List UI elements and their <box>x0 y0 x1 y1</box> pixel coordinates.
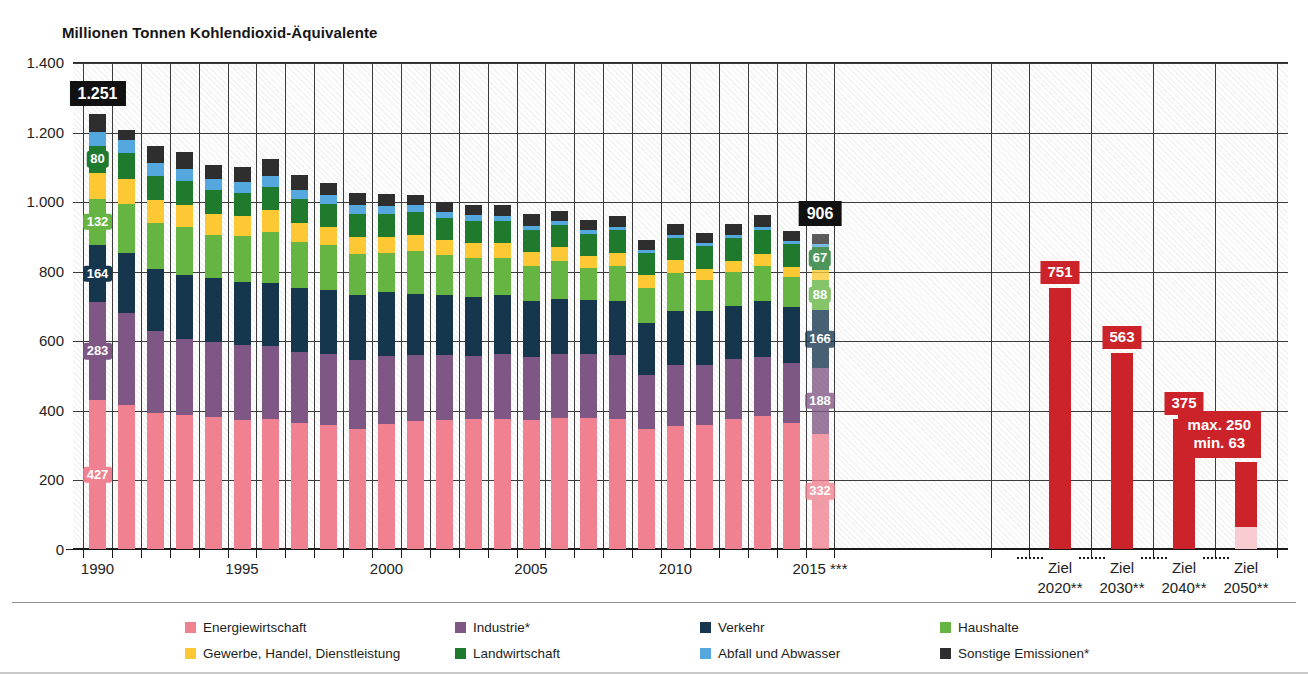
bar-segment[interactable] <box>667 426 684 549</box>
bar-segment[interactable] <box>667 224 684 234</box>
bar-segment[interactable]: 80 <box>89 146 106 174</box>
bar-segment[interactable] <box>234 182 251 193</box>
stacked-bar[interactable] <box>580 220 597 549</box>
bar-segment[interactable] <box>176 205 193 227</box>
bar-segment[interactable] <box>783 307 800 363</box>
bar-segment[interactable] <box>147 269 164 331</box>
bar-segment[interactable] <box>812 270 829 280</box>
stacked-bar[interactable] <box>725 224 742 549</box>
bar-segment[interactable] <box>551 299 568 354</box>
bar-segment[interactable] <box>147 176 164 200</box>
bar-segment[interactable] <box>118 405 135 549</box>
bar-segment[interactable] <box>551 247 568 261</box>
bar-segment[interactable] <box>89 173 106 199</box>
bar-segment[interactable] <box>465 258 482 297</box>
bar-segment[interactable] <box>118 204 135 253</box>
stacked-bar[interactable] <box>262 159 279 549</box>
bar-segment[interactable] <box>378 424 395 549</box>
bar-segment[interactable] <box>725 261 742 272</box>
bar-segment[interactable] <box>118 313 135 404</box>
bar-segment[interactable] <box>609 301 626 355</box>
bar-segment[interactable] <box>783 244 800 268</box>
bar-segment[interactable]: 283 <box>89 302 106 400</box>
bar-segment[interactable] <box>234 167 251 182</box>
bar-segment[interactable] <box>378 206 395 214</box>
bar-segment[interactable] <box>609 253 626 266</box>
stacked-bar[interactable] <box>349 193 366 549</box>
bar-segment[interactable] <box>176 152 193 169</box>
stacked-bar[interactable] <box>234 167 251 549</box>
bar-segment[interactable] <box>551 354 568 418</box>
bar-segment[interactable] <box>523 301 540 357</box>
bar-segment[interactable]: 332 <box>812 434 829 549</box>
legend-item[interactable]: Energiewirtschaft <box>185 620 455 635</box>
legend-item[interactable]: Industrie* <box>455 620 700 635</box>
bar-segment[interactable] <box>176 181 193 205</box>
bar-segment[interactable] <box>205 190 222 214</box>
bar-segment[interactable] <box>465 297 482 355</box>
bar-segment[interactable] <box>262 187 279 211</box>
bar-segment[interactable] <box>667 260 684 273</box>
bar-segment[interactable] <box>754 227 771 230</box>
stacked-bar[interactable] <box>783 231 800 549</box>
bar-segment[interactable] <box>638 288 655 323</box>
stacked-bar[interactable] <box>176 152 193 549</box>
bar-segment[interactable] <box>436 255 453 295</box>
bar-segment[interactable] <box>696 233 713 243</box>
bar-segment[interactable] <box>349 429 366 549</box>
bar-segment[interactable] <box>696 365 713 424</box>
bar-segment[interactable] <box>349 295 366 360</box>
bar-segment[interactable] <box>320 195 337 204</box>
bar-segment[interactable] <box>494 243 511 257</box>
stacked-bar[interactable]: 3321881668867906 <box>812 234 829 549</box>
stacked-bar[interactable] <box>638 240 655 549</box>
bar-segment[interactable] <box>349 205 366 213</box>
bar-segment[interactable] <box>696 246 713 269</box>
bar-segment[interactable] <box>378 253 395 293</box>
bar-segment[interactable]: 166 <box>812 310 829 368</box>
bar-segment[interactable] <box>609 355 626 419</box>
bar-segment[interactable] <box>349 237 366 254</box>
stacked-bar[interactable] <box>667 224 684 549</box>
bar-segment[interactable] <box>147 200 164 223</box>
bar-segment[interactable] <box>494 216 511 221</box>
bar-segment[interactable]: 427 <box>89 400 106 549</box>
bar-segment[interactable] <box>349 193 366 205</box>
bar-segment[interactable] <box>696 311 713 365</box>
bar-segment[interactable] <box>262 210 279 232</box>
bar-segment[interactable] <box>465 215 482 221</box>
bar-segment[interactable] <box>176 169 193 181</box>
bar-segment[interactable] <box>176 339 193 415</box>
legend-item[interactable]: Abfall und Abwasser <box>700 646 940 661</box>
bar-segment[interactable] <box>609 266 626 301</box>
bar-segment[interactable] <box>725 238 742 261</box>
bar-segment[interactable] <box>378 214 395 237</box>
bar-segment[interactable] <box>291 190 308 200</box>
bar-segment[interactable] <box>667 273 684 311</box>
goal-bar[interactable]: 563 <box>1111 353 1133 549</box>
bar-segment[interactable] <box>234 193 251 217</box>
bar-segment[interactable] <box>205 342 222 417</box>
bar-segment[interactable] <box>783 363 800 423</box>
bar-segment[interactable] <box>176 275 193 339</box>
bar-segment[interactable] <box>291 175 308 189</box>
bar-segment[interactable] <box>320 183 337 195</box>
bar-segment[interactable] <box>465 419 482 549</box>
bar-segment[interactable] <box>580 234 597 256</box>
bar-segment[interactable] <box>638 375 655 429</box>
bar-segment[interactable] <box>523 357 540 420</box>
bar-segment[interactable] <box>262 346 279 419</box>
bar-segment[interactable] <box>118 179 135 204</box>
bar-segment[interactable] <box>783 277 800 307</box>
bar-segment[interactable] <box>407 251 424 293</box>
bar-segment[interactable] <box>118 140 135 153</box>
goal-bar[interactable]: max. 250min. 63 <box>1235 462 1257 549</box>
bar-segment[interactable] <box>234 282 251 345</box>
bar-segment[interactable] <box>465 243 482 258</box>
bar-segment[interactable] <box>407 235 424 251</box>
bar-segment[interactable] <box>465 221 482 243</box>
bar-segment[interactable] <box>754 254 771 266</box>
bar-segment[interactable] <box>609 227 626 230</box>
bar-segment[interactable] <box>147 163 164 176</box>
stacked-bar[interactable] <box>551 211 568 549</box>
